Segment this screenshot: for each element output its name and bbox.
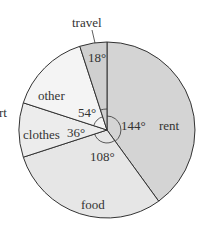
label-travel: travel <box>72 15 102 30</box>
label-travel-angle: 18° <box>88 50 106 65</box>
label-food-angle: 108° <box>90 149 115 164</box>
label-clothes-angle: 36° <box>67 125 85 140</box>
travel-leader-line <box>92 30 95 43</box>
label-clothes: clothes <box>23 127 60 142</box>
label-other: other <box>38 88 65 103</box>
label-other-angle: 54° <box>78 105 96 120</box>
label-rent-angle: 144° <box>121 118 146 133</box>
label-food: food <box>81 197 105 212</box>
label-rent: rent <box>159 118 180 133</box>
pie-chart: travel 18° other 54° clothes 36° 144° re… <box>0 0 214 244</box>
label-cut-off: rt <box>0 105 7 120</box>
